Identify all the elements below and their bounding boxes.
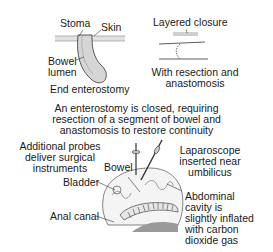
bowel-label: Bowel: [104, 162, 133, 173]
cavity-label-line5: dioxide gas: [185, 235, 238, 246]
skin-label: Skin: [101, 22, 121, 33]
bowel-lumen-label-line2: lumen: [48, 67, 77, 78]
anastomosis-illustration: [159, 29, 208, 59]
probes-label-line3: instruments: [15, 163, 105, 174]
laparoscope-label-line3: umbilicus: [170, 167, 250, 178]
description-line3: anastomosis to restore continuity: [0, 125, 273, 136]
layered-closure-label: Layered closure: [153, 17, 228, 28]
bladder-label: Bladder: [63, 177, 99, 188]
end-enterostomy-caption: End enterostomy: [50, 84, 129, 95]
anal-canal-label: Anal canal: [50, 211, 99, 222]
bowel-upper-wall: [159, 42, 205, 44]
anastomosis-suture: [176, 44, 180, 59]
resection-caption-line2: anastomosis: [145, 78, 245, 89]
stoma-label: Stoma: [60, 18, 90, 29]
closure-layer: [173, 32, 198, 36]
skin-pointer: [94, 30, 101, 36]
